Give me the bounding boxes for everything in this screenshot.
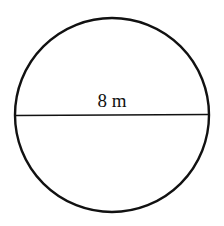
diameter-label: 8 m [0, 91, 224, 110]
circle-diagram: 8 m [0, 0, 224, 226]
diameter-line [15, 115, 209, 116]
circle-drawing [0, 0, 224, 226]
